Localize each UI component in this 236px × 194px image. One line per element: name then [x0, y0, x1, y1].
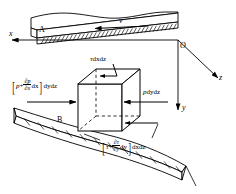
- left-pressure-label: [p+∂p∂xdx]dydz: [11, 78, 57, 95]
- plate-a-label: A: [39, 26, 45, 34]
- diagram-canvas: [0, 0, 236, 194]
- right-pressure-area: dydz: [147, 88, 161, 96]
- origin-label: O: [180, 42, 186, 50]
- bottom-shear-fraction: ∂τ∂y: [112, 139, 120, 152]
- couette-flow-diagram: A B v O x y z τdxdz pdydz [p+∂p∂xdx]dydz…: [0, 0, 236, 194]
- velocity-label: v: [119, 17, 123, 25]
- top-shear-area: dxdz: [93, 55, 107, 63]
- y-axis-label: y: [182, 104, 186, 112]
- bottom-shear-area: dxdz: [132, 143, 146, 151]
- x-axis-label: x: [9, 30, 13, 38]
- bottom-shear-denominator: ∂y: [112, 145, 120, 152]
- plate-b-leader: [186, 166, 196, 186]
- fluid-element-cube: [78, 69, 140, 131]
- left-pressure-dx: dx: [31, 82, 38, 90]
- plate-b-label: B: [57, 116, 62, 124]
- bottom-bracket-close: ]: [128, 141, 131, 156]
- left-pressure-area: dydz: [43, 82, 57, 90]
- bottom-shear-label: [τ+∂τ∂ydy]dxdz: [101, 139, 146, 156]
- bottom-shear-arrow: [125, 123, 158, 138]
- z-axis-label: z: [219, 74, 222, 82]
- bottom-bracket-open: [: [102, 141, 105, 156]
- bottom-shear-dy: dy: [120, 143, 127, 151]
- top-shear-label: τdxdz: [90, 56, 106, 63]
- right-pressure-label: pdydz: [143, 89, 160, 96]
- left-bracket-open: [: [12, 80, 15, 95]
- bottom-shear-numerator: ∂τ: [112, 139, 120, 145]
- left-bracket-close: ]: [40, 80, 43, 95]
